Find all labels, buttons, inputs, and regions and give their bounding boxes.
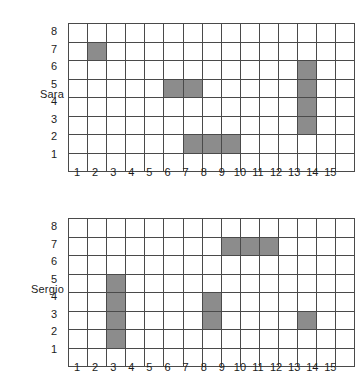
grid-cell-10-4[interactable]	[240, 293, 259, 312]
grid-cell-3-8[interactable]	[107, 24, 126, 43]
grid-cell-10-8[interactable]	[240, 24, 259, 43]
grid-cell-filled-9-2[interactable]	[221, 135, 240, 154]
grid-cell-15-6[interactable]	[336, 256, 355, 275]
grid-cell-8-7[interactable]	[202, 237, 221, 256]
grid-cell-3-8[interactable]	[107, 219, 126, 238]
grid-cell-6-3[interactable]	[164, 116, 183, 135]
grid-cell-15-2[interactable]	[336, 135, 355, 154]
grid-cell-12-4[interactable]	[279, 293, 298, 312]
grid-cell-14-7[interactable]	[317, 237, 336, 256]
grid-cell-14-2[interactable]	[317, 135, 336, 154]
grid-cell-12-6[interactable]	[279, 256, 298, 275]
grid-cell-11-8[interactable]	[259, 24, 278, 43]
grid-cell-2-4[interactable]	[88, 293, 107, 312]
grid-cell-10-5[interactable]	[240, 79, 259, 98]
grid-cell-3-7[interactable]	[107, 42, 126, 61]
grid-cell-4-4[interactable]	[126, 293, 145, 312]
grid-cell-9-8[interactable]	[221, 24, 240, 43]
grid-cell-13-4[interactable]	[298, 293, 317, 312]
grid-cell-7-2[interactable]	[183, 330, 202, 349]
grid-cell-7-8[interactable]	[183, 24, 202, 43]
grid-cell-13-8[interactable]	[298, 24, 317, 43]
grid-cell-12-2[interactable]	[279, 135, 298, 154]
grid-cell-14-8[interactable]	[317, 24, 336, 43]
grid-cell-filled-8-3[interactable]	[202, 311, 221, 330]
grid-cell-6-4[interactable]	[164, 98, 183, 117]
grid-cell-4-2[interactable]	[126, 135, 145, 154]
grid-cell-6-7[interactable]	[164, 237, 183, 256]
grid-cell-8-4[interactable]	[202, 98, 221, 117]
grid-cell-12-7[interactable]	[279, 237, 298, 256]
grid-cell-7-4[interactable]	[183, 293, 202, 312]
grid-cell-4-6[interactable]	[126, 61, 145, 80]
grid-cell-8-5[interactable]	[202, 79, 221, 98]
grid-cell-2-6[interactable]	[88, 61, 107, 80]
grid-cell-6-8[interactable]	[164, 219, 183, 238]
grid-cell-5-5[interactable]	[145, 274, 164, 293]
grid-cell-10-2[interactable]	[240, 330, 259, 349]
grid-cell-2-8[interactable]	[88, 24, 107, 43]
grid-cell-filled-2-7[interactable]	[88, 42, 107, 61]
grid-cell-2-2[interactable]	[88, 135, 107, 154]
grid-cell-14-5[interactable]	[317, 79, 336, 98]
grid-cell-15-5[interactable]	[336, 79, 355, 98]
grid-cell-14-3[interactable]	[317, 311, 336, 330]
grid-cell-5-8[interactable]	[145, 24, 164, 43]
grid-cell-filled-3-3[interactable]	[107, 311, 126, 330]
grid-cell-15-7[interactable]	[336, 42, 355, 61]
grid-cell-12-7[interactable]	[279, 42, 298, 61]
grid-cell-5-2[interactable]	[145, 330, 164, 349]
grid-cell-2-2[interactable]	[88, 330, 107, 349]
grid-cell-9-6[interactable]	[221, 256, 240, 275]
grid-cell-filled-8-2[interactable]	[202, 135, 221, 154]
grid-cell-11-2[interactable]	[259, 135, 278, 154]
grid-cell-12-6[interactable]	[279, 61, 298, 80]
grid-cell-8-8[interactable]	[202, 24, 221, 43]
grid-cell-8-3[interactable]	[202, 116, 221, 135]
grid-cell-15-5[interactable]	[336, 274, 355, 293]
grid-cell-1-8[interactable]	[69, 24, 88, 43]
grid-cell-1-5[interactable]	[69, 79, 88, 98]
grid-cell-4-7[interactable]	[126, 237, 145, 256]
grid-cell-filled-3-2[interactable]	[107, 330, 126, 349]
grid-cell-1-4[interactable]	[69, 98, 88, 117]
grid-cell-11-3[interactable]	[259, 311, 278, 330]
grid-cell-9-5[interactable]	[221, 274, 240, 293]
grid-cell-5-2[interactable]	[145, 135, 164, 154]
grid-cell-14-4[interactable]	[317, 98, 336, 117]
grid-cell-11-8[interactable]	[259, 219, 278, 238]
grid-cell-4-2[interactable]	[126, 330, 145, 349]
grid-cell-12-2[interactable]	[279, 330, 298, 349]
grid-cell-9-8[interactable]	[221, 219, 240, 238]
grid-cell-12-5[interactable]	[279, 274, 298, 293]
grid-cell-15-4[interactable]	[336, 98, 355, 117]
grid-cell-filled-13-5[interactable]	[298, 79, 317, 98]
grid-cell-10-3[interactable]	[240, 311, 259, 330]
grid-cell-14-2[interactable]	[317, 330, 336, 349]
grid-cell-15-2[interactable]	[336, 330, 355, 349]
grid-cell-5-6[interactable]	[145, 256, 164, 275]
grid-cell-11-3[interactable]	[259, 116, 278, 135]
grid-cell-filled-3-5[interactable]	[107, 274, 126, 293]
grid-cell-7-3[interactable]	[183, 116, 202, 135]
grid-cell-filled-9-7[interactable]	[221, 237, 240, 256]
grid-cell-9-7[interactable]	[221, 42, 240, 61]
grid-cell-15-8[interactable]	[336, 219, 355, 238]
grid-cell-8-2[interactable]	[202, 330, 221, 349]
grid-cell-8-8[interactable]	[202, 219, 221, 238]
grid-cell-2-8[interactable]	[88, 219, 107, 238]
grid-cell-filled-11-7[interactable]	[259, 237, 278, 256]
grid-cell-6-2[interactable]	[164, 330, 183, 349]
grid-cell-9-5[interactable]	[221, 79, 240, 98]
grid-cell-6-6[interactable]	[164, 256, 183, 275]
grid-cell-7-5[interactable]	[183, 274, 202, 293]
grid-cell-11-5[interactable]	[259, 79, 278, 98]
grid-cell-8-6[interactable]	[202, 61, 221, 80]
grid-cell-9-2[interactable]	[221, 330, 240, 349]
grid-cell-1-7[interactable]	[69, 42, 88, 61]
grid-cell-11-6[interactable]	[259, 256, 278, 275]
grid-cell-10-3[interactable]	[240, 116, 259, 135]
grid-cell-12-8[interactable]	[279, 24, 298, 43]
grid-cell-7-6[interactable]	[183, 61, 202, 80]
grid-cell-1-5[interactable]	[69, 274, 88, 293]
